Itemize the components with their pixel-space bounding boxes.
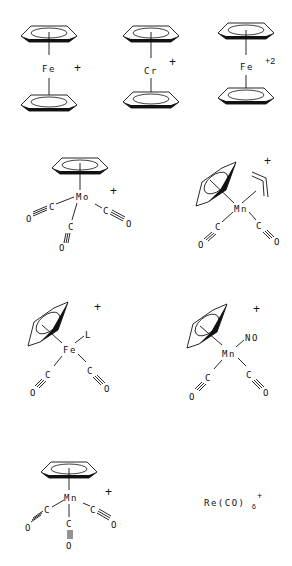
svg-text:O: O	[26, 214, 33, 224]
svg-text:C: C	[45, 370, 52, 380]
svg-text:C: C	[205, 373, 212, 383]
svg-text:O: O	[59, 243, 66, 253]
charge-label: +	[110, 184, 117, 198]
charge-label: +2	[265, 56, 275, 66]
svg-text:C: C	[256, 221, 263, 231]
svg-text:O: O	[198, 240, 205, 250]
svg-text:C: C	[103, 206, 110, 216]
complex-chromocenium: Cr +	[123, 26, 179, 108]
svg-text:O: O	[66, 541, 73, 551]
complex-cpmn-allyl-co2: Mn + C O C O	[196, 154, 281, 250]
complex-cpfe-l-co2: Fe + L C O C O	[28, 300, 111, 398]
metal-label-mo: Mo	[76, 192, 90, 202]
metal-label-mn: Mn	[222, 349, 236, 359]
metal-label-fe: Fe	[63, 345, 77, 355]
svg-text:C: C	[246, 370, 253, 380]
svg-text:O: O	[104, 384, 111, 394]
complex-cpmn-no-co2: Mn + NO C O C O	[187, 302, 270, 402]
complex-cpmn-co3: Mn + C O C O C O	[25, 462, 118, 551]
formula-re-co6: Re(CO) 6 +	[204, 491, 262, 510]
metal-label-fe: Fe	[240, 62, 254, 72]
formula-subscript: 6	[252, 503, 256, 510]
complex-ferrocene-dication: Fe +2	[218, 23, 275, 104]
svg-text:C: C	[49, 202, 56, 212]
svg-text:C: C	[44, 505, 51, 515]
svg-text:C: C	[66, 519, 73, 529]
svg-text:C: C	[215, 222, 222, 232]
complex-ferrocenium: Fe +	[21, 26, 81, 111]
svg-text:O: O	[274, 237, 281, 247]
svg-text:C: C	[90, 505, 97, 515]
svg-text:C: C	[68, 222, 75, 232]
svg-text:O: O	[30, 388, 37, 398]
charge-label: +	[264, 154, 271, 168]
svg-text:O: O	[263, 388, 270, 398]
charge-label: +	[74, 61, 81, 75]
metal-label-mn: Mn	[234, 204, 248, 214]
ligand-label-no: NO	[245, 333, 259, 343]
metal-label-cr: Cr	[144, 66, 158, 76]
svg-text:O: O	[111, 520, 118, 530]
charge-label: +	[105, 485, 112, 499]
svg-text:C: C	[87, 366, 94, 376]
ligand-label-l: L	[85, 330, 92, 340]
svg-text:O: O	[189, 392, 196, 402]
svg-text:O: O	[25, 523, 32, 533]
charge-label: +	[253, 302, 260, 316]
charge-label: +	[169, 55, 176, 69]
formula-main: Re(CO)	[204, 498, 246, 508]
chemical-structures-diagram: Fe + Cr + Fe +2 Mo + C O C	[0, 0, 292, 566]
complex-cpmo-co3: Mo + C O C O C O	[26, 158, 133, 253]
metal-label-fe: Fe	[42, 64, 56, 74]
formula-superscript: +	[257, 491, 262, 501]
charge-label: +	[94, 300, 101, 314]
metal-label-mn: Mn	[64, 493, 78, 503]
svg-text:O: O	[126, 219, 133, 229]
